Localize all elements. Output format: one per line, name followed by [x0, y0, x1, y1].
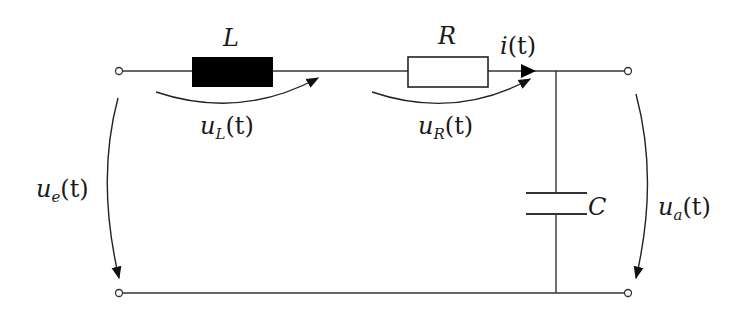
inductor-label: L	[223, 26, 239, 50]
u-a-arg: (t)	[682, 193, 710, 221]
u-a-label: ua(t)	[658, 195, 711, 223]
u-R-label: uR(t)	[418, 114, 473, 142]
resistor-symbol-text: R	[438, 22, 456, 50]
capacitor-label: C	[588, 195, 606, 219]
terminal-output-top	[625, 68, 632, 75]
u-R-base: u	[418, 112, 433, 140]
u-e-base: u	[36, 175, 51, 203]
resistor-symbol	[408, 57, 488, 87]
inductor-symbol	[192, 57, 273, 87]
capacitor-symbol-text: C	[588, 193, 606, 221]
u-a-base: u	[658, 193, 673, 221]
capacitor-symbol	[526, 71, 587, 293]
terminal-input-bottom	[116, 290, 123, 297]
inductor-symbol-text: L	[223, 24, 239, 52]
circuit-diagram: L R C i(t) uL(t) uR(t) ue(t) ua(t)	[0, 0, 749, 317]
u-L-arg: (t)	[225, 112, 253, 140]
u-a-arrow-icon	[636, 94, 648, 278]
resistor-label: R	[438, 24, 456, 48]
u-e-arg: (t)	[60, 175, 88, 203]
current-label: i(t)	[500, 34, 536, 58]
u-L-base: u	[200, 112, 215, 140]
u-R-arg: (t)	[445, 112, 473, 140]
u-e-label: ue(t)	[36, 177, 89, 205]
u-e-arrow-icon	[107, 98, 119, 278]
current-arg: (t)	[508, 32, 536, 60]
u-R-sub: R	[433, 125, 444, 143]
terminal-output-bottom	[625, 290, 632, 297]
current-arrow-icon	[521, 64, 536, 78]
circuit-schematic	[0, 0, 749, 317]
u-L-sub: L	[215, 125, 225, 143]
current-base: i	[500, 32, 508, 60]
u-L-label: uL(t)	[200, 114, 254, 142]
terminal-input-top	[116, 68, 123, 75]
